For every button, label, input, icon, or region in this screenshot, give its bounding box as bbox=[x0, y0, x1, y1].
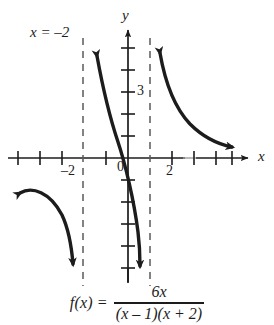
fraction-denominator: (x – 1)(x + 2) bbox=[114, 304, 204, 323]
graph-canvas bbox=[0, 0, 274, 325]
rational-function-figure: x = –2 y x 0 –2 2 3 f(x) = 6x (x – 1)(x … bbox=[0, 0, 274, 325]
axis-label-x: x bbox=[258, 149, 265, 164]
tick-label-x-neg2: –2 bbox=[61, 164, 75, 178]
curve-branches bbox=[20, 53, 232, 266]
equation-left-hand-side: f(x) bbox=[70, 294, 93, 312]
tick-label-y-3: 3 bbox=[137, 84, 144, 98]
equation-equals-sign: = bbox=[98, 294, 107, 312]
left-branch bbox=[20, 190, 73, 264]
tick-label-x-pos2: 2 bbox=[166, 164, 173, 178]
asymptote-label-x-equals-neg2: x = –2 bbox=[30, 25, 69, 40]
equation-fraction: 6x (x – 1)(x + 2) bbox=[114, 283, 204, 323]
fraction-numerator: 6x bbox=[145, 283, 172, 302]
right-branch bbox=[160, 53, 232, 147]
axis-label-y: y bbox=[122, 8, 129, 23]
tick-label-origin: 0 bbox=[117, 160, 124, 174]
equation-caption: f(x) = 6x (x – 1)(x + 2) bbox=[0, 283, 274, 323]
axis-group bbox=[8, 30, 248, 283]
